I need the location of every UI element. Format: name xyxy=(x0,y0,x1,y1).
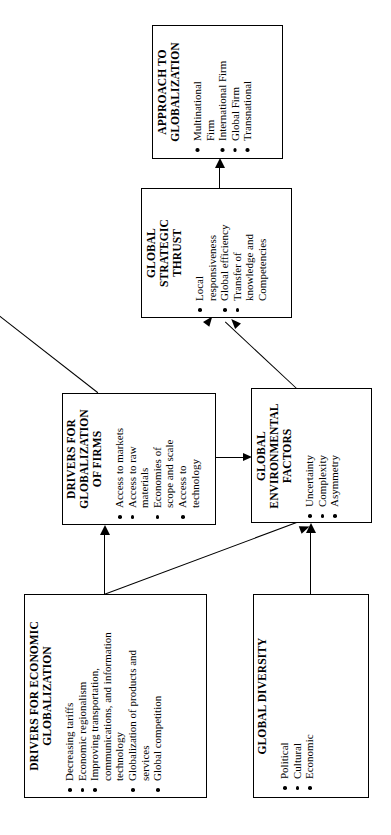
list-item: Cultural xyxy=(291,734,304,792)
list-item: Economies of scope and scale xyxy=(151,428,176,521)
list-item: Multinational Firm xyxy=(190,61,215,154)
list-item: Asymmetry xyxy=(328,455,341,520)
list-item: Improving transportation, communications… xyxy=(88,632,126,794)
list-item: Transnational xyxy=(240,61,253,154)
node-approach-to-globalization[interactable]: APPROACH TO GLOBALIZATION Multinational … xyxy=(152,25,283,159)
edge-driverseconomic-to-driversfirms-line xyxy=(104,533,105,594)
list-item: Decreasing tariffs xyxy=(63,632,76,794)
node-environmental-title: GLOBAL ENVIRONMENTAL FACTORS xyxy=(255,403,294,508)
edge-thrust-to-approach-arrowhead xyxy=(215,158,225,168)
edge-diversity-to-environmental-line xyxy=(310,531,311,594)
node-global-strategic-thrust[interactable]: GLOBAL STRATEGIC THRUST Local responsive… xyxy=(141,188,292,318)
list-item: Global efficiency xyxy=(218,225,231,314)
edge-driversfirms-to-thrust-line xyxy=(0,314,98,393)
list-item: Access to markets xyxy=(113,428,126,521)
list-item: Local responsiveness xyxy=(193,225,218,314)
node-drivers-firms-title: DRIVERS FOR GLOBALIZATION OF FIRMS xyxy=(65,409,104,509)
node-thrust-bullets: Local responsiveness Global efficiency T… xyxy=(193,225,269,314)
node-drivers-for-globalization-of-firms[interactable]: DRIVERS FOR GLOBALIZATION OF FIRMS Acces… xyxy=(62,393,216,525)
node-drivers-firms-bullets: Access to markets Access to raw material… xyxy=(113,428,201,521)
list-item: Political xyxy=(278,734,291,792)
node-environmental-bullets: Uncertainty Complexity Asymmetry xyxy=(303,455,341,520)
list-item: International Firm xyxy=(215,61,228,154)
node-approach-bullets: Multinational Firm International Firm Gl… xyxy=(190,61,253,154)
list-item: Economic regionalism xyxy=(75,632,88,794)
node-diversity-title: GLOBAL DIVERSITY xyxy=(256,638,269,755)
list-item: Globalization of products and services xyxy=(125,632,150,794)
diagram-canvas: APPROACH TO GLOBALIZATION Multinational … xyxy=(0,0,391,835)
node-drivers-for-economic-globalization[interactable]: DRIVERS FOR ECONOMIC GLOBALIZATION Decre… xyxy=(24,594,207,798)
node-diversity-bullets: Political Cultural Economic xyxy=(278,734,316,792)
list-item: Economic xyxy=(303,734,316,792)
node-global-environmental-factors[interactable]: GLOBAL ENVIRONMENTAL FACTORS Uncertainty… xyxy=(251,388,372,523)
list-item: Access to raw materials xyxy=(126,428,151,521)
edge-driversfirms-to-environmental-line xyxy=(216,457,245,458)
node-approach-title: APPROACH TO GLOBALIZATION xyxy=(155,42,181,142)
edge-driverseconomic-to-driversfirms-arrowhead xyxy=(100,525,110,535)
edge-driverseconomic-to-environmental-line xyxy=(104,519,306,596)
edge-diversity-to-environmental-arrowhead xyxy=(306,523,316,533)
list-item: Uncertainty xyxy=(303,455,316,520)
list-item: Global competition xyxy=(151,632,164,794)
edge-thrust-to-approach-line xyxy=(219,166,220,190)
list-item: Global Firm xyxy=(228,61,241,154)
node-thrust-title: GLOBAL STRATEGIC THRUST xyxy=(145,219,184,287)
node-drivers-economic-title: DRIVERS FOR ECONOMIC GLOBALIZATION xyxy=(28,621,54,771)
list-item: Complexity xyxy=(315,455,328,520)
node-global-diversity[interactable]: GLOBAL DIVERSITY Political Cultural Econ… xyxy=(253,594,369,798)
list-item: Transfer of knowledge and Competencies xyxy=(230,225,268,314)
node-drivers-economic-bullets: Decreasing tariffs Economic regionalism … xyxy=(63,632,164,794)
edge-environmental-to-thrust-line xyxy=(225,321,298,389)
list-item: Access to technology xyxy=(176,428,201,521)
